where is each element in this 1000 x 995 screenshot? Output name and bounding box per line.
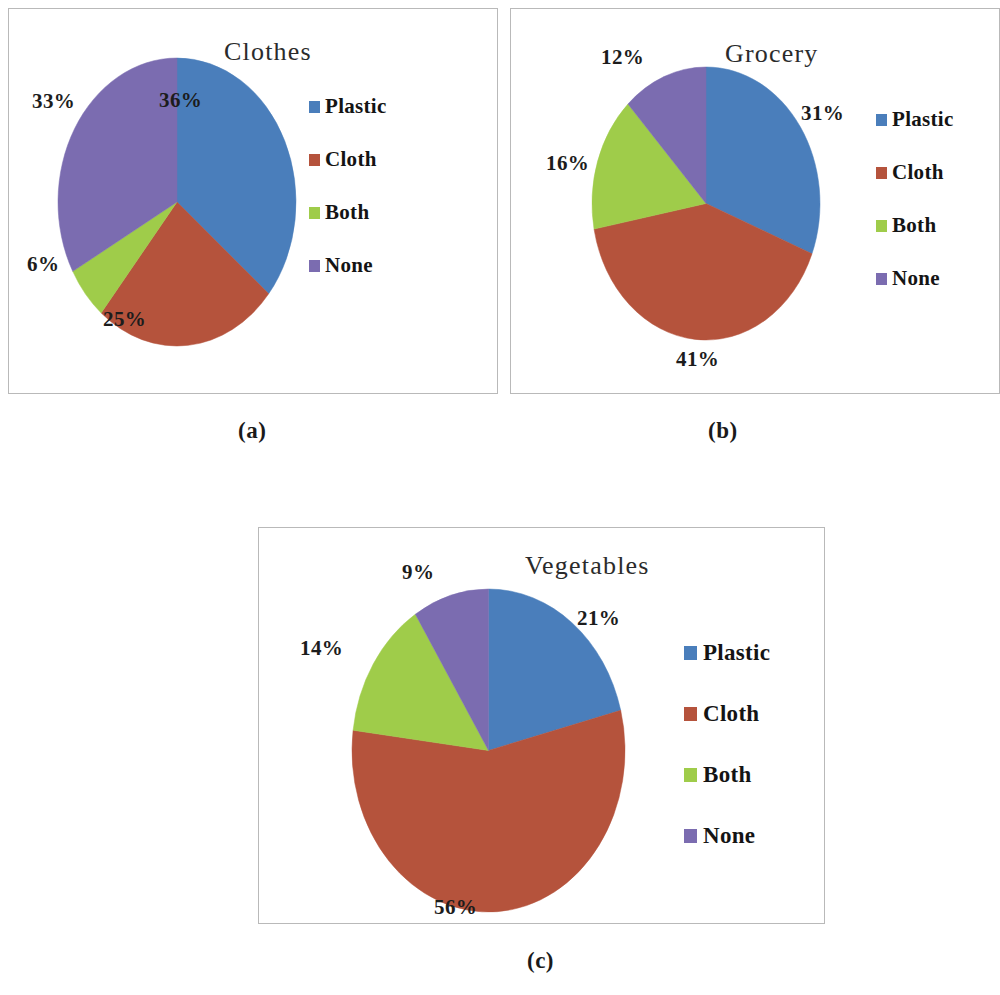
legend-item-cloth[interactable]: Cloth [684, 701, 770, 727]
chart-title-grocery: Grocery [725, 39, 819, 69]
pie-svg-grocery [591, 66, 821, 341]
pie-label-vegetables-none: 9% [402, 560, 434, 585]
legend-item-none[interactable]: None [684, 823, 770, 849]
pie-label-grocery-both: 16% [546, 151, 589, 176]
chart-panel-grocery: Grocery 31% 41% 16% 12% Plastic Cloth Bo… [510, 8, 1000, 394]
pie-svg-vegetables [351, 588, 626, 913]
pie-grocery [591, 66, 821, 341]
legend-swatch-plastic-icon [309, 101, 320, 113]
pie-label-grocery-none: 12% [601, 45, 644, 70]
legend-label-plastic: Plastic [703, 640, 770, 666]
legend-vegetables: Plastic Cloth Both None [684, 640, 770, 884]
legend-item-plastic[interactable]: Plastic [684, 640, 770, 666]
legend-label-cloth: Cloth [703, 701, 759, 727]
legend-label-cloth: Cloth [892, 160, 944, 185]
pie-vegetables [351, 588, 626, 913]
subfigure-caption-b: (b) [708, 418, 738, 444]
pie-label-vegetables-cloth: 56% [434, 895, 477, 920]
pie-label-vegetables-both: 14% [300, 636, 343, 661]
legend-label-plastic: Plastic [325, 94, 387, 119]
legend-label-none: None [892, 266, 940, 291]
pie-label-grocery-plastic: 31% [801, 101, 844, 126]
pie-label-clothes-cloth: 25% [103, 307, 146, 332]
legend-label-both: Both [325, 200, 369, 225]
legend-item-plastic[interactable]: Plastic [309, 94, 387, 119]
legend-swatch-both-icon [684, 768, 697, 782]
legend-label-cloth: Cloth [325, 147, 377, 172]
legend-swatch-plastic-icon [684, 646, 697, 660]
legend-item-both[interactable]: Both [876, 213, 954, 238]
legend-clothes: Plastic Cloth Both None [309, 94, 387, 278]
legend-swatch-none-icon [684, 829, 697, 843]
chart-title-vegetables: Vegetables [525, 551, 650, 581]
legend-item-both[interactable]: Both [684, 762, 770, 788]
legend-swatch-both-icon [309, 207, 320, 219]
pie-label-clothes-both: 6% [27, 252, 59, 277]
legend-swatch-none-icon [876, 273, 887, 285]
legend-item-cloth[interactable]: Cloth [876, 160, 954, 185]
subfigure-caption-c: (c) [527, 948, 554, 974]
legend-label-none: None [703, 823, 755, 849]
legend-swatch-cloth-icon [309, 154, 320, 166]
subfigure-caption-a: (a) [238, 418, 266, 444]
legend-swatch-plastic-icon [876, 114, 887, 126]
legend-label-plastic: Plastic [892, 107, 954, 132]
legend-label-both: Both [703, 762, 752, 788]
legend-label-none: None [325, 253, 373, 278]
pie-label-vegetables-plastic: 21% [577, 606, 620, 631]
legend-swatch-cloth-icon [876, 167, 887, 179]
pie-label-clothes-none: 33% [32, 89, 75, 114]
legend-item-both[interactable]: Both [309, 200, 387, 225]
legend-item-cloth[interactable]: Cloth [309, 147, 387, 172]
chart-panel-vegetables: Vegetables 21% 56% 14% 9% Plastic Cloth … [258, 527, 825, 924]
legend-item-none[interactable]: None [876, 266, 954, 291]
legend-swatch-both-icon [876, 220, 887, 232]
legend-swatch-none-icon [309, 260, 320, 272]
pie-label-grocery-cloth: 41% [676, 347, 719, 372]
chart-panel-clothes: Clothes 36% 25% 6% 33% Plastic Cloth Bot… [8, 8, 498, 394]
legend-swatch-cloth-icon [684, 707, 697, 721]
legend-item-plastic[interactable]: Plastic [876, 107, 954, 132]
legend-item-none[interactable]: None [309, 253, 387, 278]
legend-grocery: Plastic Cloth Both None [876, 107, 954, 291]
legend-label-both: Both [892, 213, 936, 238]
pie-label-clothes-plastic: 36% [159, 88, 202, 113]
